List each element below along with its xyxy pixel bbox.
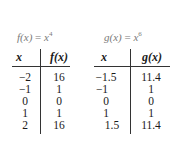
table-g-header-gx: g(x) (142, 50, 162, 65)
table-f-column-divider (40, 49, 41, 134)
table-g-header-divider (94, 66, 170, 67)
table-g-x-cell: 1 (94, 108, 118, 119)
table-f-x-cell: −2 (12, 72, 38, 83)
table-g-x-cell: −1 (90, 84, 114, 95)
table-f-header-fx: f(x) (50, 50, 68, 65)
table-g-x-cell: 0 (94, 96, 118, 107)
table-f-header-divider (12, 66, 70, 67)
table-g-title: g(x) = x6 (104, 30, 142, 43)
table-g-y-cell: 1 (134, 108, 168, 119)
table-f-y-cell: 1 (46, 108, 72, 119)
table-g-header-x: x (101, 50, 107, 65)
table-f-title: f(x) = x4 (17, 30, 52, 43)
table-f-header-x: x (16, 50, 22, 65)
table-g: g(x) = x6 x g(x) −1.5 −1 0 1 1.5 11.4 1 … (86, 0, 173, 153)
table-g-y-cell: 11.4 (134, 72, 168, 83)
table-f-x-cell: −1 (12, 84, 38, 95)
table-f-x-cell: 1 (12, 108, 38, 119)
table-f-y-cell: 16 (46, 120, 72, 131)
table-f-x-cell: 0 (12, 96, 38, 107)
table-f-y-cell: 16 (46, 72, 72, 83)
table-g-y-cell: 11.4 (134, 120, 168, 131)
table-g-column-divider (130, 49, 131, 134)
table-g-x-cell: 1.5 (96, 120, 128, 131)
table-f-y-cell: 0 (46, 96, 72, 107)
table-f-y-cell: 1 (46, 84, 72, 95)
table-g-y-cell: 1 (134, 84, 168, 95)
table-g-x-cell: −1.5 (90, 72, 122, 83)
table-f-x-cell: 2 (12, 120, 38, 131)
table-g-y-cell: 0 (134, 96, 168, 107)
table-f: f(x) = x4 x f(x) −2 −1 0 1 2 16 1 0 1 16 (0, 0, 86, 153)
